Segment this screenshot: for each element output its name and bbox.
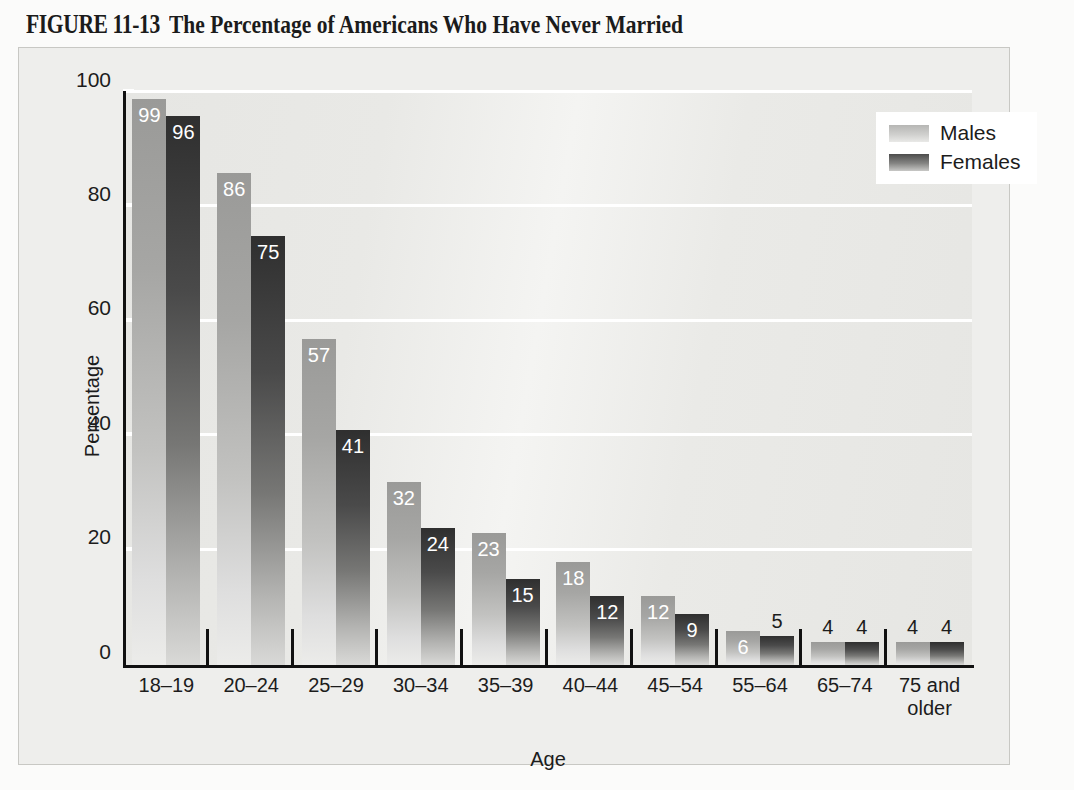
- chart-legend: MalesFemales: [876, 112, 1037, 184]
- legend-label: Males: [940, 121, 996, 145]
- bar-group: 1812: [548, 93, 633, 665]
- bar-group: 5741: [294, 93, 379, 665]
- legend-swatch-males: [889, 125, 929, 142]
- bar-groups: 999686755741322423151812129654444: [124, 93, 972, 665]
- y-tick-label: 60: [88, 296, 111, 320]
- bar-females[interactable]: 4: [845, 642, 879, 665]
- y-tick-label: 0: [99, 640, 111, 664]
- legend-item[interactable]: Males: [889, 121, 1021, 145]
- y-tick-label: 40: [88, 411, 111, 435]
- bar-value-label: 23: [472, 539, 506, 559]
- bar-females[interactable]: 75: [251, 236, 285, 665]
- bar-value-label: 96: [166, 122, 200, 142]
- x-tick-label: 55–64: [718, 674, 803, 720]
- y-tick-label: 80: [88, 182, 111, 206]
- bar-females[interactable]: 96: [166, 116, 200, 665]
- bar-value-label: 15: [506, 585, 540, 605]
- bar-females[interactable]: 24: [421, 528, 455, 665]
- bar-value-label: 4: [930, 617, 964, 637]
- y-tick-label: 100: [76, 68, 111, 92]
- bar-females[interactable]: 15: [506, 579, 540, 665]
- x-tick-label: 20–24: [209, 674, 294, 720]
- bar-value-label: 4: [811, 617, 845, 637]
- bar-males[interactable]: 23: [472, 533, 506, 665]
- x-tick-label: 40–44: [548, 674, 633, 720]
- bar-group: 3224: [378, 93, 463, 665]
- bar-value-label: 5: [760, 611, 794, 631]
- bar-group: 65: [718, 93, 803, 665]
- bar-value-label: 4: [845, 617, 879, 637]
- legend-item[interactable]: Females: [889, 150, 1021, 174]
- figure-frame: Percentage 020406080100 9996867557413224…: [18, 47, 1010, 765]
- bar-value-label: 9: [675, 620, 709, 640]
- figure-title: FIGURE 11-13 The Percentage of Americans…: [26, 9, 767, 43]
- bar-group: 9996: [124, 93, 209, 665]
- bar-females[interactable]: 5: [760, 636, 794, 665]
- bar-group: 44: [802, 93, 887, 665]
- bar-males[interactable]: 99: [132, 99, 166, 665]
- bar-value-label: 18: [556, 568, 590, 588]
- bar-females[interactable]: 41: [336, 430, 370, 665]
- plot-area: 020406080100 999686755741322423151812129…: [124, 93, 972, 665]
- legend-label: Females: [940, 150, 1021, 174]
- bar-value-label: 12: [590, 602, 624, 622]
- bar-value-label: 75: [251, 242, 285, 262]
- bar-value-label: 24: [421, 534, 455, 554]
- x-tick-labels: 18–1920–2425–2930–3435–3940–4445–5455–64…: [124, 674, 972, 720]
- x-tick-label: 45–54: [633, 674, 718, 720]
- bar-group: 129: [633, 93, 718, 665]
- bar-males[interactable]: 57: [302, 339, 336, 665]
- legend-swatch-females: [889, 154, 929, 171]
- figure-number: FIGURE 11-13: [26, 9, 160, 40]
- bar-females[interactable]: 9: [675, 614, 709, 665]
- y-axis-title: Percentage: [81, 355, 104, 457]
- bar-females[interactable]: 4: [930, 642, 964, 665]
- x-tick-label: 25–29: [294, 674, 379, 720]
- bar-value-label: 99: [132, 105, 166, 125]
- x-tick-label: 35–39: [463, 674, 548, 720]
- x-tick-label: 65–74: [802, 674, 887, 720]
- bar-group: 8675: [209, 93, 294, 665]
- bar-females[interactable]: 12: [590, 596, 624, 665]
- bar-value-label: 32: [387, 488, 421, 508]
- bar-value-label: 6: [726, 637, 760, 657]
- x-tick-label: 30–34: [378, 674, 463, 720]
- bar-males[interactable]: 6: [726, 631, 760, 665]
- bar-males[interactable]: 4: [811, 642, 845, 665]
- bar-males[interactable]: 12: [641, 596, 675, 665]
- y-axis-line: [123, 91, 126, 667]
- bar-value-label: 4: [896, 617, 930, 637]
- x-axis-title: Age: [124, 748, 972, 771]
- bar-males[interactable]: 32: [387, 482, 421, 665]
- y-tick-label: 20: [88, 525, 111, 549]
- figure-title-text: The Percentage of Americans Who Have Nev…: [169, 11, 683, 39]
- bar-males[interactable]: 18: [556, 562, 590, 665]
- bar-value-label: 57: [302, 345, 336, 365]
- bar-males[interactable]: 86: [217, 173, 251, 665]
- bar-group: 2315: [463, 93, 548, 665]
- bar-value-label: 41: [336, 436, 370, 456]
- bar-value-label: 12: [641, 602, 675, 622]
- x-tick-label: 18–19: [124, 674, 209, 720]
- x-tick-label: 75 and older: [887, 674, 972, 720]
- x-axis-line: [123, 665, 974, 668]
- bar-males[interactable]: 4: [896, 642, 930, 665]
- bar-value-label: 86: [217, 179, 251, 199]
